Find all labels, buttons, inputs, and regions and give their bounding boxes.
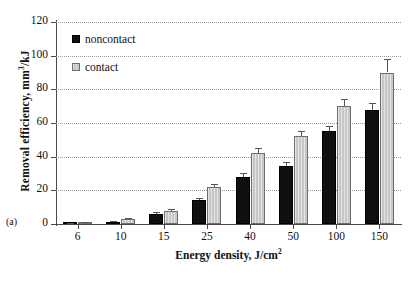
bar-noncontact-50 bbox=[279, 166, 293, 224]
error-bar-cap-noncontact-25 bbox=[196, 198, 203, 199]
y-axis-tick bbox=[51, 190, 56, 191]
gridline bbox=[56, 22, 401, 23]
error-bar-cap-noncontact-10 bbox=[110, 221, 117, 222]
error-bar-cap-contact-150 bbox=[384, 59, 391, 60]
bar-contact-50 bbox=[294, 136, 308, 224]
y-axis-tick bbox=[51, 89, 56, 90]
error-bar-cap-contact-50 bbox=[298, 131, 305, 132]
y-axis-tick-label: 0 bbox=[16, 216, 48, 228]
x-axis-tick bbox=[379, 224, 380, 229]
error-bar-contact-100 bbox=[344, 99, 345, 107]
error-bar-cap-contact-40 bbox=[255, 148, 262, 149]
y-axis-label-superscript: 3 bbox=[17, 66, 26, 70]
x-axis-label-main: Energy density, J/cm bbox=[175, 249, 278, 261]
error-bar-cap-contact-10 bbox=[125, 218, 132, 219]
bar-noncontact-100 bbox=[322, 131, 336, 224]
x-axis-tick-label: 150 bbox=[354, 230, 404, 242]
x-axis-tick bbox=[207, 224, 208, 229]
bar-noncontact-25 bbox=[192, 200, 206, 224]
error-bar-cap-noncontact-100 bbox=[326, 126, 333, 127]
y-axis-tick bbox=[51, 56, 56, 57]
bar-contact-40 bbox=[251, 153, 265, 224]
error-bar-cap-noncontact-150 bbox=[369, 103, 376, 104]
error-bar-cap-noncontact-50 bbox=[283, 162, 290, 163]
y-axis-tick bbox=[51, 224, 56, 225]
bar-contact-100 bbox=[337, 106, 351, 224]
legend-label-noncontact: noncontact bbox=[85, 33, 135, 45]
error-bar-cap-noncontact-40 bbox=[240, 173, 247, 174]
x-axis-label: Energy density, J/cm2 bbox=[56, 247, 401, 261]
y-axis-tick-label: 40 bbox=[16, 149, 48, 161]
x-axis-line bbox=[55, 224, 402, 225]
y-axis-tick-label: 80 bbox=[16, 81, 48, 93]
legend-label-contact: contact bbox=[85, 61, 118, 73]
bar-contact-25 bbox=[207, 187, 221, 224]
bar-noncontact-10 bbox=[106, 222, 120, 224]
x-axis-label-superscript: 2 bbox=[278, 247, 282, 256]
y-axis-tick-label: 20 bbox=[16, 182, 48, 194]
bar-contact-10 bbox=[121, 219, 135, 224]
y-axis-tick bbox=[51, 123, 56, 124]
legend-swatch-icon-contact bbox=[72, 63, 80, 71]
legend: noncontact contact bbox=[72, 30, 135, 76]
error-bar-cap-contact-6 bbox=[82, 222, 89, 223]
gridline bbox=[56, 89, 401, 90]
y-axis-tick-label: 120 bbox=[16, 14, 48, 26]
legend-swatch-icon-noncontact bbox=[72, 35, 80, 43]
bar-noncontact-150 bbox=[365, 110, 379, 224]
x-axis-tick bbox=[121, 224, 122, 229]
error-bar-contact-150 bbox=[387, 59, 388, 72]
bar-contact-150 bbox=[380, 73, 394, 225]
y-axis-tick-label: 100 bbox=[16, 48, 48, 60]
x-axis-tick bbox=[250, 224, 251, 229]
bar-contact-15 bbox=[164, 211, 178, 224]
legend-item-noncontact: noncontact bbox=[72, 30, 135, 48]
error-bar-cap-noncontact-15 bbox=[153, 212, 160, 213]
figure-panel-a: Removal efficiency, mm3/kJ (a) 020406080… bbox=[0, 0, 419, 285]
x-axis-tick bbox=[293, 224, 294, 229]
x-axis-tick bbox=[164, 224, 165, 229]
x-axis-tick bbox=[336, 224, 337, 229]
error-bar-cap-contact-15 bbox=[168, 209, 175, 210]
error-bar-cap-noncontact-6 bbox=[67, 223, 74, 224]
x-axis-tick bbox=[78, 224, 79, 229]
y-axis-tick bbox=[51, 157, 56, 158]
y-axis-tick-label: 60 bbox=[16, 115, 48, 127]
error-bar-cap-contact-25 bbox=[211, 184, 218, 185]
y-axis-tick bbox=[51, 22, 56, 23]
legend-item-contact: contact bbox=[72, 58, 135, 76]
error-bar-noncontact-150 bbox=[372, 103, 373, 110]
bar-noncontact-15 bbox=[149, 214, 163, 224]
bar-noncontact-40 bbox=[236, 177, 250, 224]
error-bar-cap-contact-100 bbox=[341, 99, 348, 100]
